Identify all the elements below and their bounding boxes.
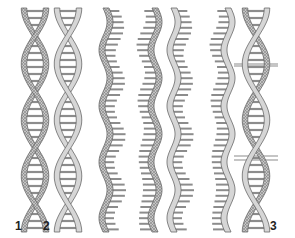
single-5 (167, 8, 194, 232)
label-3: 3 (270, 220, 277, 232)
label-1: 1 (15, 220, 22, 232)
single-3 (99, 8, 126, 232)
single-6 (210, 8, 235, 232)
helix-1 (21, 8, 49, 232)
helix-2 (54, 8, 82, 232)
dna-diagram (0, 0, 295, 238)
label-2: 2 (43, 220, 50, 232)
single-4 (137, 8, 162, 232)
helix-7 (234, 8, 278, 232)
